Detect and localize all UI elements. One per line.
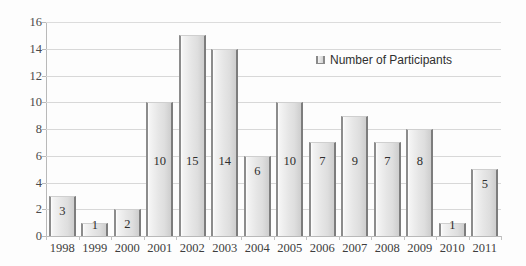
bar-slot: 1	[81, 22, 108, 236]
bar-chart: 0246810121416 312101514610797815 1998199…	[0, 0, 526, 266]
bar-value-label: 8	[406, 155, 433, 168]
y-axis-tick-label: 14	[2, 43, 42, 55]
x-axis-category-label: 2004	[241, 241, 274, 255]
bar-slot: 5	[471, 22, 498, 236]
chart-legend: Number of Participants	[316, 53, 452, 67]
bar-value-label: 15	[179, 155, 206, 168]
x-axis-category-label: 2007	[339, 241, 372, 255]
y-axis-tick-label: 12	[2, 70, 42, 82]
x-axis-tick-mark	[501, 236, 502, 240]
y-axis-tick-label: 0	[2, 230, 42, 242]
x-axis-category-label: 2002	[176, 241, 209, 255]
bar-value-label: 5	[471, 178, 498, 191]
bar[interactable]	[406, 129, 433, 236]
x-axis-tick-mark	[111, 236, 112, 240]
x-axis-category-label: 2011	[469, 241, 502, 255]
y-axis-tick-label: 10	[2, 96, 42, 108]
y-axis-tick-label: 2	[2, 203, 42, 215]
x-axis-tick-mark	[176, 236, 177, 240]
bar-value-label: 7	[309, 155, 336, 168]
bar[interactable]	[211, 49, 238, 236]
x-axis-tick-mark	[79, 236, 80, 240]
x-axis-category-label: 2010	[436, 241, 469, 255]
x-axis-category-label: 2009	[404, 241, 437, 255]
y-axis-tick-labels: 0246810121416	[0, 22, 42, 237]
x-axis-category-label: 2008	[371, 241, 404, 255]
x-axis-tick-mark	[436, 236, 437, 240]
bar-value-label: 6	[244, 165, 271, 178]
bar[interactable]	[146, 102, 173, 236]
bar-value-label: 1	[439, 219, 466, 232]
bar-value-label: 2	[114, 218, 141, 231]
x-axis-category-label: 2001	[144, 241, 177, 255]
x-axis-category-label: 1999	[79, 241, 112, 255]
bar-value-label: 1	[81, 219, 108, 232]
bar-slot: 15	[179, 22, 206, 236]
x-axis-tick-mark	[469, 236, 470, 240]
bar-slot: 3	[49, 22, 76, 236]
x-axis-tick-mark	[144, 236, 145, 240]
y-axis-tick-label: 4	[2, 177, 42, 189]
bar-value-label: 10	[276, 155, 303, 168]
x-axis-category-label: 2005	[274, 241, 307, 255]
y-axis-tick-label: 16	[2, 16, 42, 28]
x-axis-tick-mark	[46, 236, 47, 240]
bar[interactable]	[276, 102, 303, 236]
x-axis-category-label: 2003	[209, 241, 242, 255]
bar[interactable]	[179, 35, 206, 236]
bar-value-label: 3	[49, 205, 76, 218]
legend-swatch-icon	[316, 56, 325, 64]
y-axis-tick-label: 6	[2, 150, 42, 162]
x-axis-tick-mark	[306, 236, 307, 240]
bar[interactable]	[341, 116, 368, 236]
bar-value-label: 10	[146, 155, 173, 168]
y-axis-tick-label: 8	[2, 123, 42, 135]
legend-label: Number of Participants	[330, 53, 452, 67]
bar-slot: 14	[211, 22, 238, 236]
bar-slot: 6	[244, 22, 271, 236]
bar-value-label: 7	[374, 155, 401, 168]
x-axis-tick-mark	[274, 236, 275, 240]
bar-slot: 10	[146, 22, 173, 236]
bar-slot: 10	[276, 22, 303, 236]
x-axis-category-label: 2006	[306, 241, 339, 255]
x-axis-tick-mark	[241, 236, 242, 240]
x-axis-tick-mark	[339, 236, 340, 240]
x-axis-tick-mark	[404, 236, 405, 240]
bar-slot: 2	[114, 22, 141, 236]
x-axis-category-label: 1998	[46, 241, 79, 255]
bar-value-label: 14	[211, 155, 238, 168]
x-axis-category-label: 2000	[111, 241, 144, 255]
bar-value-label: 9	[341, 155, 368, 168]
x-axis-tick-mark	[371, 236, 372, 240]
x-axis-tick-mark	[209, 236, 210, 240]
